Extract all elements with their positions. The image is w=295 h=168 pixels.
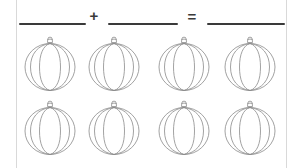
pumpkin-icon-2 xyxy=(85,34,143,94)
pumpkin-icon-8 xyxy=(221,98,279,158)
pumpkin-row-2 xyxy=(0,98,295,160)
worksheet-page: + = xyxy=(0,0,295,168)
answer-blank-addend-1[interactable] xyxy=(19,23,86,25)
pumpkin-icon-1 xyxy=(21,34,79,94)
pumpkin-grid xyxy=(0,32,295,168)
plus-operator-symbol: + xyxy=(87,8,101,23)
answer-blank-addend-2[interactable] xyxy=(108,23,178,25)
pumpkin-icon-6 xyxy=(85,98,143,158)
pumpkin-icon-7 xyxy=(155,98,213,158)
pumpkin-icon-4 xyxy=(221,34,279,94)
pumpkin-icon-5 xyxy=(21,98,79,158)
answer-blank-sum[interactable] xyxy=(207,23,285,25)
pumpkin-row-1 xyxy=(0,34,295,96)
equals-operator-symbol: = xyxy=(185,9,199,24)
pumpkin-icon-3 xyxy=(155,34,213,94)
equation-row: + = xyxy=(0,0,295,32)
